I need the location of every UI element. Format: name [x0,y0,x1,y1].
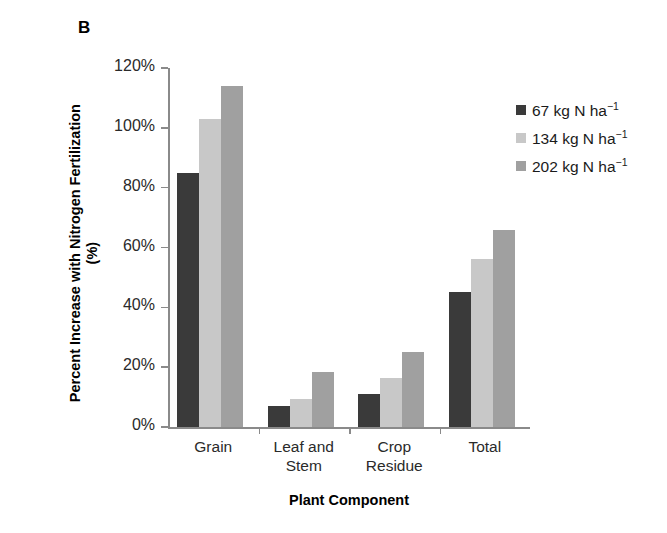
bar-series-container [168,68,530,427]
x-axis-category-label-line: Leaf and [259,437,350,456]
legend-swatch [516,133,526,143]
y-axis-tick-mark [161,67,168,69]
bar [268,406,290,427]
bar [493,230,515,427]
legend-item: 202 kg N ha−1 [516,152,628,180]
y-axis-tick-label: 20% [123,356,155,374]
y-axis-tick-mark [161,307,168,309]
y-axis-title: Percent Increase with Nitrogen Fertiliza… [67,103,101,403]
x-axis-category-label: CropResidue [349,437,440,476]
bar [358,394,380,427]
bar [177,173,199,427]
figure-panel-b: B Percent Increase with Nitrogen Fertili… [0,0,667,533]
legend-label: 202 kg N ha−1 [532,156,628,176]
y-axis-tick-label: 60% [123,237,155,255]
chart-legend: 67 kg N ha−1134 kg N ha−1202 kg N ha−1 [516,96,628,180]
x-axis-category-label-line: Residue [349,456,440,475]
y-axis-tick-label: 100% [114,117,155,135]
bar-group [268,68,334,427]
bar [471,259,493,427]
legend-item: 134 kg N ha−1 [516,124,628,152]
x-axis-tick-mark [259,427,261,434]
y-axis-tick-mark [161,187,168,189]
y-axis-tick-mark [161,247,168,249]
bar [290,399,312,427]
x-axis-tick-mark [349,427,351,434]
bar-group [177,68,243,427]
legend-item: 67 kg N ha−1 [516,96,628,124]
bar-group [449,68,515,427]
x-axis-tick-mark [440,427,442,434]
bar [380,378,402,427]
x-axis-category-label-line: Stem [259,456,350,475]
y-axis-tick-mark [161,426,168,428]
y-axis-tick-mark [161,366,168,368]
y-axis-tick-label: 0% [132,416,155,434]
x-axis-category-label-line: Crop [349,437,440,456]
y-axis-tick-label: 120% [114,57,155,75]
x-axis-category-label-line: Grain [168,437,259,456]
y-axis-tick-label: 80% [123,177,155,195]
x-axis-category-label: Grain [168,437,259,456]
bar [449,292,471,427]
x-axis-category-label: Leaf andStem [259,437,350,476]
bar [199,119,221,427]
y-axis-tick-label: 40% [123,296,155,314]
x-axis-title: Plant Component [168,492,530,508]
bar [402,352,424,427]
y-axis-tick-mark [161,127,168,129]
panel-label: B [78,18,91,38]
plot-area: 0%20%40%60%80%100%120% [168,68,530,427]
x-axis-category-label-line: Total [440,437,531,456]
bar [312,372,334,427]
legend-swatch [516,105,526,115]
legend-label: 134 kg N ha−1 [532,128,628,148]
legend-swatch [516,161,526,171]
legend-label: 67 kg N ha−1 [532,100,619,120]
x-axis-category-label: Total [440,437,531,456]
bar-group [358,68,424,427]
bar [221,86,243,427]
